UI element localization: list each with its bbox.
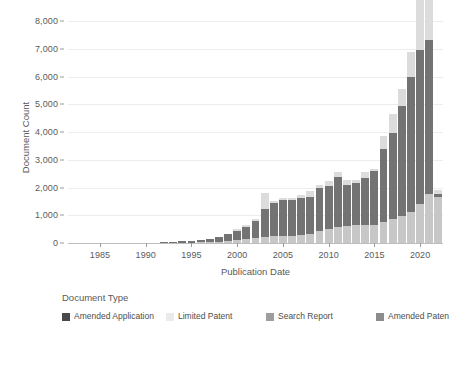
bar-segment: [380, 222, 388, 243]
bar-segment: [288, 236, 296, 243]
y-tick-label: 6,000: [35, 72, 58, 82]
x-tick-label: 2015: [364, 250, 384, 260]
bar[interactable]: [334, 172, 342, 243]
x-tick-mark: [191, 243, 192, 247]
bar-segment: [242, 227, 250, 239]
bar[interactable]: [270, 201, 278, 243]
legend-item-label: Amended Patent: [388, 311, 449, 323]
gridline: [68, 21, 443, 22]
bar-segment: [416, 204, 424, 243]
bar-segment: [334, 177, 342, 227]
bar-segment: [334, 227, 342, 243]
bar-segment: [361, 178, 369, 226]
x-tick-label: 2020: [410, 250, 430, 260]
bar[interactable]: [361, 172, 369, 243]
y-tick-mark: [60, 159, 64, 160]
bar[interactable]: [370, 169, 378, 243]
y-tick-mark: [60, 21, 64, 22]
bar[interactable]: [297, 195, 305, 243]
bar[interactable]: [306, 191, 314, 243]
legend-items: Amended ApplicationLimited PatentSearch …: [62, 311, 392, 323]
bar-segment: [325, 229, 333, 243]
y-tick-mark: [60, 76, 64, 77]
legend-item[interactable]: Search Report: [266, 311, 376, 323]
y-tick-mark: [60, 243, 64, 244]
y-tick-label: 2,000: [35, 183, 58, 193]
legend-item[interactable]: Amended Application: [62, 311, 166, 323]
bar[interactable]: [233, 229, 241, 243]
x-axis-title: Publication Date: [68, 266, 443, 277]
bar-segment: [425, 40, 433, 194]
x-tick-label: 1990: [136, 250, 156, 260]
y-tick-label: 3,000: [35, 155, 58, 165]
bar-segment: [398, 106, 406, 216]
bar-segment: [389, 114, 397, 133]
bar[interactable]: [316, 185, 324, 243]
legend: Document Type Amended ApplicationLimited…: [62, 292, 392, 323]
y-tick-label: 7,000: [35, 44, 58, 54]
x-tick-label: 2005: [273, 250, 293, 260]
x-tick-label: 2000: [227, 250, 247, 260]
y-tick-mark: [60, 215, 64, 216]
bar-segment: [380, 136, 388, 149]
bar-segment: [352, 225, 360, 243]
bar[interactable]: [389, 114, 397, 243]
x-tick-label: 1985: [90, 250, 110, 260]
bar[interactable]: [380, 136, 388, 243]
bar[interactable]: [398, 89, 406, 243]
gridline: [68, 77, 443, 78]
y-tick-mark: [60, 187, 64, 188]
bar-segment: [370, 225, 378, 243]
legend-item-label: Amended Application: [74, 311, 154, 323]
bar-segment: [261, 193, 269, 210]
bar[interactable]: [288, 198, 296, 243]
bar[interactable]: [343, 180, 351, 243]
bar[interactable]: [416, 0, 424, 243]
legend-item-label: Search Report: [278, 311, 333, 323]
bar-segment: [361, 225, 369, 243]
x-tick-mark: [420, 243, 421, 247]
legend-title: Document Type: [62, 292, 392, 303]
x-axis-line: [68, 243, 443, 244]
bar[interactable]: [425, 0, 433, 243]
bar-segment: [279, 200, 287, 236]
bar[interactable]: [352, 180, 360, 243]
gridline: [68, 132, 443, 133]
legend-item[interactable]: Amended Patent: [376, 311, 449, 323]
bar-segment: [407, 77, 415, 212]
bar[interactable]: [434, 190, 442, 243]
bar[interactable]: [224, 234, 232, 243]
y-tick-label: 8,000: [35, 16, 58, 26]
y-axis: 01,0002,0003,0004,0005,0006,0007,0008,00…: [0, 0, 68, 265]
legend-swatch-icon: [376, 313, 384, 321]
bar-segment: [416, 0, 424, 50]
bar[interactable]: [407, 52, 415, 243]
gridline: [68, 49, 443, 50]
bar-segment: [343, 185, 351, 226]
plot-area: [68, 21, 443, 243]
bar[interactable]: [279, 198, 287, 243]
bar[interactable]: [325, 181, 333, 243]
x-tick-mark: [374, 243, 375, 247]
bar-segment: [316, 231, 324, 243]
bar-segment: [261, 209, 269, 236]
legend-swatch-icon: [62, 313, 70, 321]
legend-swatch-icon: [166, 313, 174, 321]
bar-segment: [380, 149, 388, 222]
legend-swatch-icon: [266, 313, 274, 321]
bar-segment: [398, 89, 406, 106]
x-tick-mark: [283, 243, 284, 247]
legend-item-label: Limited Patent: [178, 311, 232, 323]
bar[interactable]: [242, 225, 250, 243]
legend-item[interactable]: Limited Patent: [166, 311, 266, 323]
bar[interactable]: [261, 193, 269, 243]
bar-segment: [306, 197, 314, 234]
bar-segment: [343, 226, 351, 243]
bar[interactable]: [252, 219, 260, 243]
bar-segment: [389, 133, 397, 218]
bar-segment: [407, 52, 415, 77]
bar-segment: [306, 234, 314, 243]
bar-segment: [288, 200, 296, 235]
bar-segment: [434, 197, 442, 243]
y-tick-label: 0: [53, 238, 58, 248]
